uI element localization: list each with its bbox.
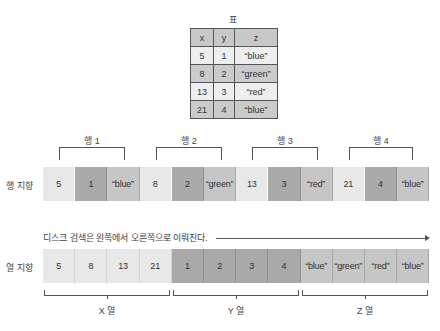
cell-z: “blue” bbox=[235, 47, 278, 65]
column-cell: 4 bbox=[268, 249, 300, 283]
row-cell: 8 bbox=[140, 167, 172, 201]
row-cell: 4 bbox=[365, 167, 397, 201]
row-bracket-1 bbox=[59, 147, 125, 160]
disk-scan-note: 디스크 검색은 왼쪽에서 오른쪽으로 이뤄진다. bbox=[43, 231, 208, 244]
row-cell: “red” bbox=[301, 167, 333, 201]
row-cell: 5 bbox=[43, 167, 75, 201]
column-group-label-z: Z 열 bbox=[302, 304, 428, 317]
row-bracket-4 bbox=[349, 147, 413, 160]
cell-y: 3 bbox=[214, 83, 235, 101]
row-cell: “green” bbox=[204, 167, 236, 201]
column-cell: “blue” bbox=[301, 249, 333, 283]
cell-x: 21 bbox=[191, 101, 214, 119]
column-cell: 13 bbox=[107, 249, 139, 283]
column-group-label-x: X 열 bbox=[44, 304, 170, 317]
column-cell: “blue” bbox=[397, 249, 429, 283]
column-cell: 21 bbox=[140, 249, 172, 283]
row-bracket-2 bbox=[156, 147, 222, 160]
column-cell: 2 bbox=[204, 249, 236, 283]
column-bracket-y bbox=[173, 290, 299, 296]
cell-y: 1 bbox=[214, 47, 235, 65]
column-oriented-label: 열 지향 bbox=[6, 261, 33, 274]
row-group-label-4: 행 4 bbox=[349, 134, 413, 147]
cell-z: “red” bbox=[235, 83, 278, 101]
column-cell: 5 bbox=[43, 249, 75, 283]
column-bracket-x bbox=[44, 290, 170, 296]
table-header-row: x y z bbox=[191, 29, 278, 47]
table-row: 8 2 “green” bbox=[191, 65, 278, 83]
column-cell: 8 bbox=[75, 249, 107, 283]
row-cell: 21 bbox=[333, 167, 365, 201]
column-cell: 1 bbox=[172, 249, 204, 283]
column-group-label-y: Y 열 bbox=[173, 304, 299, 317]
header-y: y bbox=[214, 29, 235, 47]
cell-y: 2 bbox=[214, 65, 235, 83]
column-bracket-z bbox=[302, 290, 428, 296]
row-oriented-strip: 5 1 “blue” 8 2 “green” 13 3 “red” 21 4 “… bbox=[43, 167, 429, 201]
cell-x: 8 bbox=[191, 65, 214, 83]
table-title: 표 bbox=[190, 13, 276, 26]
column-cell: “green” bbox=[333, 249, 365, 283]
column-cell: “red” bbox=[365, 249, 397, 283]
cell-x: 13 bbox=[191, 83, 214, 101]
row-cell: 1 bbox=[75, 167, 107, 201]
row-cell: 3 bbox=[268, 167, 300, 201]
header-z: z bbox=[235, 29, 278, 47]
column-cell: 3 bbox=[236, 249, 268, 283]
row-cell: “blue” bbox=[397, 167, 429, 201]
table-row: 13 3 “red” bbox=[191, 83, 278, 101]
column-oriented-strip: 5 8 13 21 1 2 3 4 “blue” “green” “red” “… bbox=[43, 249, 429, 283]
cell-y: 4 bbox=[214, 101, 235, 119]
scan-direction-arrow bbox=[216, 238, 426, 239]
row-cell: 13 bbox=[236, 167, 268, 201]
table-row: 5 1 “blue” bbox=[191, 47, 278, 65]
row-group-label-1: 행 1 bbox=[59, 134, 125, 147]
cell-z: “blue” bbox=[235, 101, 278, 119]
table-row: 21 4 “blue” bbox=[191, 101, 278, 119]
row-bracket-3 bbox=[252, 147, 318, 160]
arrow-head-icon bbox=[425, 235, 430, 241]
header-x: x bbox=[191, 29, 214, 47]
row-group-label-3: 행 3 bbox=[252, 134, 318, 147]
row-cell: 2 bbox=[172, 167, 204, 201]
row-cell: “blue” bbox=[107, 167, 139, 201]
cell-x: 5 bbox=[191, 47, 214, 65]
row-oriented-label: 행 지향 bbox=[6, 179, 33, 192]
source-table: x y z 5 1 “blue” 8 2 “green” 13 3 “red” … bbox=[190, 28, 278, 119]
row-group-label-2: 행 2 bbox=[156, 134, 222, 147]
cell-z: “green” bbox=[235, 65, 278, 83]
